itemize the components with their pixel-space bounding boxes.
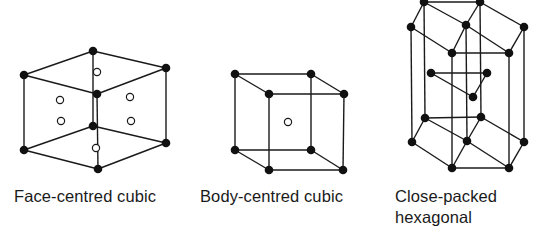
atom-closed-icon (20, 71, 29, 80)
atom-closed-icon (469, 93, 478, 102)
atom-closed-icon (162, 64, 171, 73)
bond-line (425, 118, 467, 141)
bond-line (424, 2, 466, 25)
atom-closed-icon (476, 0, 485, 6)
bond-line (466, 25, 467, 141)
atom-closed-icon (89, 47, 98, 56)
atom-closed-icon (20, 146, 29, 155)
atom-closed-icon (89, 122, 98, 131)
atom-closed-icon (408, 138, 417, 147)
atom-closed-icon (505, 164, 514, 173)
atom-closed-icon (339, 166, 348, 175)
fcc-unit-cell (20, 47, 171, 174)
bond-line (452, 141, 467, 168)
hcp-label-line2: hexagonal (395, 207, 472, 228)
bond-line (425, 117, 481, 118)
bond-line (343, 94, 344, 170)
atom-closed-icon (307, 146, 316, 155)
bond-line (311, 150, 343, 170)
atom-closed-icon (427, 69, 436, 78)
bond-line (509, 27, 524, 53)
atom-closed-icon (462, 21, 471, 30)
atom-closed-icon (520, 138, 529, 147)
atom-open-icon (92, 144, 99, 151)
atom-open-icon (127, 117, 134, 124)
hcp-unit-cell (407, 0, 529, 172)
atom-open-icon (57, 117, 64, 124)
bond-line (98, 143, 166, 169)
bond-line (24, 51, 93, 75)
atom-open-icon (126, 93, 133, 100)
atom-closed-icon (477, 113, 486, 122)
bond-line (452, 25, 466, 53)
bond-line (235, 74, 269, 94)
bond-line (411, 27, 452, 53)
atom-closed-icon (463, 137, 472, 146)
atom-closed-icon (448, 49, 457, 58)
atom-closed-icon (421, 114, 430, 123)
atom-closed-icon (483, 69, 492, 78)
atom-closed-icon (231, 146, 240, 155)
bond-line (467, 141, 509, 168)
atom-closed-icon (231, 70, 240, 79)
bond-line (480, 2, 524, 27)
atom-closed-icon (307, 70, 316, 79)
atom-closed-icon (265, 166, 274, 175)
bcc-unit-cell (231, 70, 349, 175)
bond-line (93, 126, 166, 143)
bond-line (235, 150, 269, 170)
bond-line (311, 74, 344, 94)
bond-line (93, 51, 166, 68)
atom-open-icon (93, 68, 100, 75)
fcc-label: Face-centred cubic (14, 186, 156, 207)
hcp-label-line1: Close-packed (395, 186, 497, 207)
atom-closed-icon (448, 164, 457, 173)
bond-line (509, 142, 524, 168)
bond-line (24, 150, 98, 169)
atom-closed-icon (340, 90, 349, 99)
atom-closed-icon (420, 0, 429, 6)
bond-line (412, 142, 452, 168)
bond-line (97, 94, 98, 169)
bond-line (24, 75, 97, 94)
bond-line (24, 126, 93, 150)
atom-open-icon (284, 118, 291, 125)
atom-open-icon (56, 96, 63, 103)
atom-closed-icon (520, 23, 529, 32)
atom-closed-icon (93, 90, 102, 99)
atom-closed-icon (505, 49, 514, 58)
bond-line (411, 27, 412, 142)
bond-line (481, 117, 524, 142)
bond-line (466, 25, 509, 53)
bond-line (424, 2, 425, 118)
atom-closed-icon (94, 165, 103, 174)
bond-line (97, 68, 166, 94)
atom-closed-icon (265, 90, 274, 99)
bond-line (480, 2, 481, 117)
atom-closed-icon (162, 139, 171, 148)
atom-closed-icon (407, 23, 416, 32)
bcc-label: Body-centred cubic (200, 186, 343, 207)
